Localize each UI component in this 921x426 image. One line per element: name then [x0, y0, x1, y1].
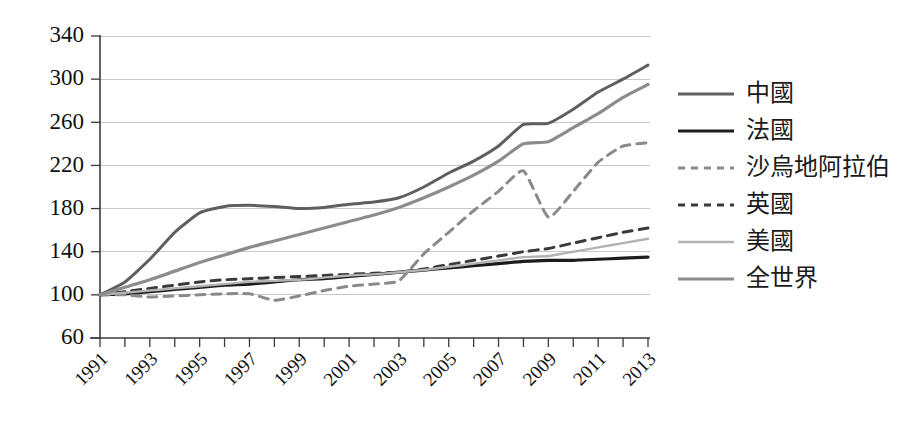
- y-axis-ticks: 60100140180220260300340: [50, 22, 101, 349]
- x-tick-label-2005: 2005: [419, 348, 461, 390]
- legend: 中國法國沙烏地阿拉伯英國美國全世界: [678, 80, 890, 291]
- x-tick-label-1995: 1995: [170, 348, 212, 390]
- x-tick-label-2011: 2011: [569, 348, 610, 389]
- y-tick-label-140: 140: [50, 238, 85, 263]
- x-tick-label-2013: 2013: [618, 348, 660, 390]
- legend-label-5: 全世界: [746, 265, 818, 291]
- y-tick-label-260: 260: [50, 109, 85, 134]
- series-line-4: [100, 239, 648, 295]
- y-tick-label-180: 180: [50, 195, 85, 220]
- line-chart: 60100140180220260300340 1991199319951997…: [0, 0, 921, 426]
- series-lines: [100, 65, 648, 300]
- x-tick-label-2007: 2007: [469, 348, 511, 390]
- y-tick-label-340: 340: [50, 22, 85, 47]
- series-line-5: [100, 85, 648, 295]
- y-tick-label-60: 60: [61, 324, 84, 349]
- y-tick-label-220: 220: [50, 152, 85, 177]
- y-tick-label-300: 300: [50, 65, 85, 90]
- x-tick-label-2003: 2003: [369, 348, 411, 390]
- y-tick-label-100: 100: [50, 281, 85, 306]
- legend-label-4: 美國: [746, 228, 794, 254]
- x-tick-label-1999: 1999: [269, 348, 311, 390]
- chart-canvas: 60100140180220260300340 1991199319951997…: [0, 0, 921, 426]
- legend-label-1: 法國: [746, 117, 794, 143]
- x-tick-label-2001: 2001: [319, 348, 361, 390]
- legend-label-3: 英國: [746, 191, 794, 217]
- x-tick-label-1991: 1991: [70, 348, 112, 390]
- legend-label-0: 中國: [746, 80, 794, 106]
- x-tick-label-1997: 1997: [220, 348, 262, 390]
- x-tick-label-2009: 2009: [518, 348, 560, 390]
- axes: [90, 35, 650, 338]
- series-line-2: [100, 143, 648, 300]
- x-tick-label-1993: 1993: [120, 348, 162, 390]
- x-axis-ticks: 1991199319951997199920012003200520072009…: [70, 338, 660, 390]
- legend-label-2: 沙烏地阿拉伯: [746, 154, 890, 180]
- gridlines: [100, 36, 650, 295]
- series-line-1: [100, 257, 648, 295]
